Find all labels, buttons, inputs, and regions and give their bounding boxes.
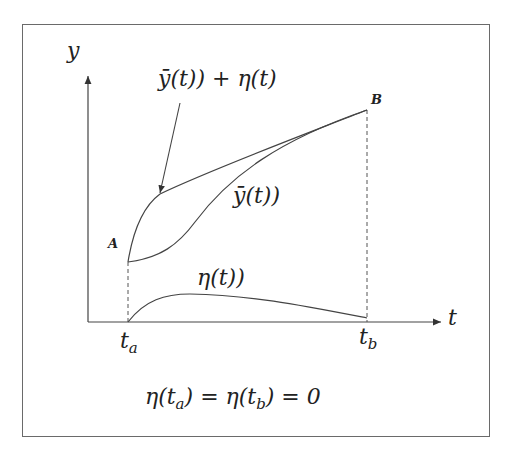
curve-eta: [128, 294, 367, 322]
boundary-condition: η(ta) = η(tb) = 0: [145, 384, 321, 413]
curve-eta-label: η(t)): [197, 265, 245, 290]
point-a-label: A: [108, 236, 118, 251]
annotation-arrow: [160, 103, 180, 193]
point-b-label: B: [371, 92, 382, 107]
y-axis-label: y: [67, 38, 79, 63]
curve-optimal-label: ȳ(t)): [233, 183, 280, 208]
tick-tb: tb: [359, 324, 377, 353]
curve-perturbed-label: ȳ(t)) + η(t): [158, 66, 277, 91]
x-axis-label: t: [448, 305, 457, 330]
tick-ta: ta: [120, 328, 138, 357]
